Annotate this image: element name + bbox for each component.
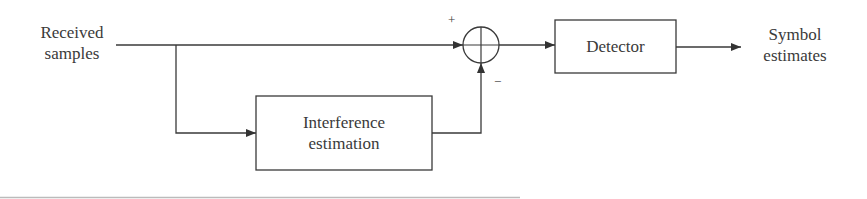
summing-junction xyxy=(463,27,499,63)
branch-line xyxy=(176,45,256,133)
input-label: Received samples xyxy=(22,22,122,64)
interference-label-line-1: Interference xyxy=(256,112,432,133)
input-label-line-2: samples xyxy=(22,43,122,64)
input-label-line-1: Received xyxy=(22,22,122,43)
block-diagram xyxy=(0,0,867,199)
interference-label-line-2: estimation xyxy=(256,133,432,154)
interference-output-line xyxy=(432,63,481,133)
plus-sign: + xyxy=(448,12,455,28)
detector-label: Detector xyxy=(555,36,676,57)
interference-block-label: Interference estimation xyxy=(256,112,432,154)
output-label-line-1: Symbol xyxy=(740,24,850,45)
output-label-line-2: estimates xyxy=(740,45,850,66)
output-label: Symbol estimates xyxy=(740,24,850,66)
minus-sign: − xyxy=(494,74,501,90)
